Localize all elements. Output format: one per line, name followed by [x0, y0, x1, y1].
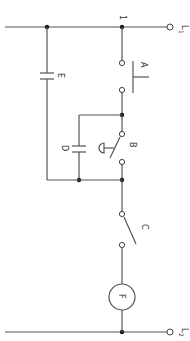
svg-text:E: E — [56, 73, 65, 78]
svg-text:A: A — [139, 62, 148, 68]
node-label-1: 1 — [118, 15, 127, 20]
svg-text:1: 1 — [178, 30, 185, 34]
capacitor-e — [40, 73, 54, 79]
terminal-l1 — [167, 24, 173, 30]
switch-c — [119, 211, 136, 247]
svg-text:B: B — [128, 142, 137, 148]
circuit-diagram: L 1 1 L 2 A B — [0, 0, 190, 341]
label-b: B — [128, 142, 137, 148]
svg-text:C: C — [140, 224, 149, 230]
terminal-l2 — [167, 329, 173, 335]
label-a: A — [139, 62, 148, 68]
capacitor-d — [72, 146, 86, 152]
switch-b — [99, 131, 125, 164]
terminal-l1-label: L 1 — [178, 25, 189, 34]
svg-text:D: D — [60, 145, 69, 151]
terminal-l2-label: L 2 — [178, 328, 189, 337]
label-c: C — [140, 224, 149, 230]
label-d: D — [60, 145, 69, 151]
svg-text:2: 2 — [178, 333, 185, 337]
label-f: F — [117, 294, 126, 299]
label-e: E — [56, 73, 65, 78]
svg-text:1: 1 — [118, 15, 127, 20]
svg-text:F: F — [117, 294, 126, 299]
